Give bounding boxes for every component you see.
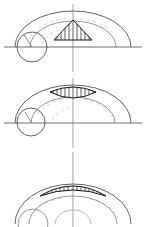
- panel-1-canvas: [0, 0, 146, 76]
- circle-radius-spoke: [25, 112, 31, 122]
- panel-stage-3: [0, 150, 146, 226]
- dashed-guide-arcs: [30, 198, 118, 218]
- panel-stage-1: [0, 0, 146, 76]
- panel-3-canvas: [0, 150, 146, 227]
- figure-root: [0, 0, 146, 227]
- panel-2-canvas: [0, 74, 146, 150]
- panel-stage-2: [0, 74, 146, 150]
